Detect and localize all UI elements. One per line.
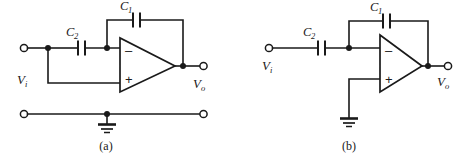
output-subscript-b: o xyxy=(445,81,449,91)
c2-subscript-b: 2 xyxy=(311,31,316,41)
panel-a: C 2 C 1 V i V o – + (a) xyxy=(17,0,207,153)
input-terminal-b[interactable] xyxy=(265,44,272,51)
feedback-left-wire-b xyxy=(349,21,383,48)
inverting-input-sign-b: – xyxy=(385,43,393,58)
noninverting-ground-wire-b xyxy=(349,79,380,118)
output-node-dot-b xyxy=(425,63,431,69)
output-terminal-a[interactable] xyxy=(200,62,207,69)
ground-rail-right-terminal-a[interactable] xyxy=(200,110,207,117)
output-node-dot-a xyxy=(180,63,186,69)
noninverting-input-sign-a: + xyxy=(125,72,133,87)
ground-rail-left-terminal-a[interactable] xyxy=(20,110,27,117)
inverting-input-sign-a: – xyxy=(125,43,133,58)
input-subscript-a: i xyxy=(25,79,28,89)
c1-subscript-a: 1 xyxy=(128,5,132,15)
circuit-diagram-svg: C 2 C 1 V i V o – + (a) xyxy=(0,0,470,156)
output-terminal-b[interactable] xyxy=(444,62,451,69)
c2-subscript-a: 2 xyxy=(74,31,79,41)
c1-subscript-b: 1 xyxy=(378,6,382,16)
panel-caption-a: (a) xyxy=(99,139,112,153)
panel-caption-b: (b) xyxy=(342,139,356,153)
noninverting-input-sign-b: + xyxy=(385,72,393,87)
input-terminal-a[interactable] xyxy=(20,44,27,51)
panel-b: C 2 C 1 V i V o – + (b) xyxy=(262,0,452,153)
figure-container: C 2 C 1 V i V o – + (a) xyxy=(0,0,470,156)
input-subscript-b: i xyxy=(270,65,273,75)
output-subscript-a: o xyxy=(201,83,205,93)
